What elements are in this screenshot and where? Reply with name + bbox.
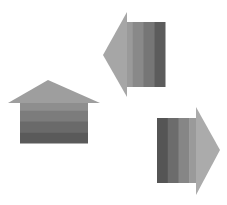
arrow-stripe (20, 122, 88, 133)
arrows-diagram (0, 0, 227, 205)
arrow-stripe (20, 111, 88, 122)
arrow-head (103, 12, 127, 97)
arrow-stripe (154, 22, 165, 87)
right-arrow-icon (157, 107, 220, 195)
left-arrow-icon (103, 12, 166, 97)
arrow-stripe (144, 22, 155, 87)
arrow-head (196, 107, 220, 195)
arrow-stripe (168, 118, 179, 183)
arrow-stripe (133, 22, 144, 87)
arrow-stripe (179, 118, 190, 183)
up-arrow-icon (8, 80, 100, 144)
arrow-head (8, 80, 100, 103)
arrow-stripe (157, 118, 168, 183)
arrow-stripe (20, 132, 88, 143)
